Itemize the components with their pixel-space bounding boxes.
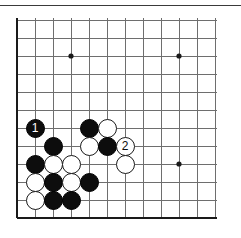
- stone-white[interactable]: [98, 119, 117, 138]
- stone-move-number: [45, 138, 62, 155]
- stone-white[interactable]: [62, 173, 81, 192]
- stone-black-move-1[interactable]: 1: [26, 119, 45, 138]
- stone-move-number: [81, 138, 98, 155]
- stone-black[interactable]: [80, 173, 99, 192]
- stone-black[interactable]: [98, 137, 117, 156]
- stone-move-number: 1: [27, 120, 44, 137]
- stone-move-number: [81, 174, 98, 191]
- stone-white-move-2[interactable]: 2: [116, 137, 135, 156]
- stone-move-number: [99, 120, 116, 137]
- stone-move-number: [63, 174, 80, 191]
- stone-black[interactable]: [80, 119, 99, 138]
- stone-move-number: [27, 174, 44, 191]
- stone-move-number: [45, 192, 62, 209]
- stone-black[interactable]: [44, 137, 63, 156]
- star-point-hoshi: [176, 53, 181, 58]
- stone-move-number: 2: [117, 138, 134, 155]
- star-point-hoshi: [68, 53, 73, 58]
- stone-white[interactable]: [44, 155, 63, 174]
- star-point-hoshi: [176, 161, 181, 166]
- stone-move-number: [99, 138, 116, 155]
- stone-black[interactable]: [62, 191, 81, 210]
- stone-black[interactable]: [26, 155, 45, 174]
- stone-move-number: [27, 156, 44, 173]
- stone-white[interactable]: [26, 191, 45, 210]
- stone-white[interactable]: [116, 155, 135, 174]
- stone-move-number: [27, 192, 44, 209]
- stone-white[interactable]: [80, 137, 99, 156]
- stone-move-number: [117, 156, 134, 173]
- stone-move-number: [45, 174, 62, 191]
- stone-move-number: [63, 156, 80, 173]
- stone-black[interactable]: [44, 191, 63, 210]
- stone-white[interactable]: [26, 173, 45, 192]
- stone-move-number: [63, 192, 80, 209]
- go-diagram-figure: 12: [0, 0, 241, 238]
- stone-move-number: [45, 156, 62, 173]
- stone-black[interactable]: [44, 173, 63, 192]
- stone-move-number: [81, 120, 98, 137]
- stone-white[interactable]: [62, 155, 81, 174]
